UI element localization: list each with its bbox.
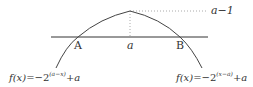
right-function-tail: +a — [233, 72, 247, 83]
point-a-label: a — [127, 40, 134, 51]
left-function-lhs: f(x) — [9, 72, 26, 83]
point-B-label: B — [176, 40, 184, 51]
right-function-lhs: f(x) — [176, 72, 193, 83]
point-A-label: A — [74, 40, 82, 51]
left-function-tail: +a — [66, 72, 80, 83]
right-function-label: f(x)=−2(x−a)+a — [176, 71, 247, 83]
left-curve — [56, 11, 130, 68]
right-curve — [130, 11, 202, 68]
left-function-label: f(x)=−2(a−x)+a — [9, 71, 80, 83]
right-function-exponent: (x−a) — [216, 70, 233, 77]
left-function-eq: =−2 — [26, 72, 49, 83]
left-function-exponent: (a−x) — [49, 70, 66, 77]
peak-value-label: a−1 — [211, 5, 234, 16]
right-function-eq: =−2 — [193, 72, 216, 83]
